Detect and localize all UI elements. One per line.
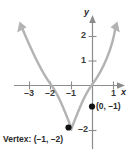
x-axis-label: x: [121, 88, 126, 97]
left-arm-arrowhead: [17, 22, 26, 33]
y-tick-label-2: 2: [81, 31, 86, 40]
plot-canvas: [0, 0, 132, 149]
parabola-curve: [22, 27, 116, 129]
vertex-point: [65, 124, 71, 130]
x-tick-label-neg2: –2: [45, 89, 55, 98]
vertex-annotation-label: Vertex: (–1, –2): [3, 135, 63, 144]
y-tick-label-1: 1: [81, 56, 86, 65]
parabola-figure: –3 –2 –1 1 2 1 –2 y x (0, –1) Vertex: (–…: [0, 0, 132, 149]
x-tick-label-neg3: –3: [24, 89, 34, 98]
y-axis-label: y: [84, 8, 89, 17]
x-tick-label-neg1: –1: [66, 89, 76, 98]
y-tick-label-neg2: –2: [78, 125, 88, 134]
x-tick-label-1: 1: [111, 89, 116, 98]
y-intercept-point: [89, 103, 95, 109]
y-intercept-label: (0, –1): [96, 102, 121, 111]
y-axis-arrowhead: [89, 15, 96, 23]
